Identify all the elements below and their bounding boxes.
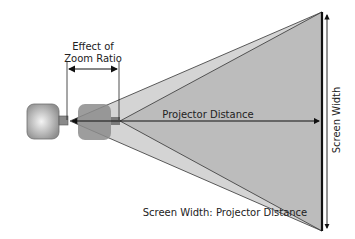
ghost-projector-body xyxy=(78,104,111,140)
screen-width-label: Screen Width xyxy=(331,87,342,154)
zoom-effect-label-line1: Effect of xyxy=(72,41,114,52)
projector-body xyxy=(27,104,59,139)
projector-distance-label: Projector Distance xyxy=(162,109,253,120)
ratio-label: Screen Width: Projector Distance xyxy=(143,207,308,218)
zoom-effect-label-line2: Zoom Ratio xyxy=(64,53,122,64)
projection-diagram: Effect of Zoom Ratio Projector Distance … xyxy=(0,0,355,239)
